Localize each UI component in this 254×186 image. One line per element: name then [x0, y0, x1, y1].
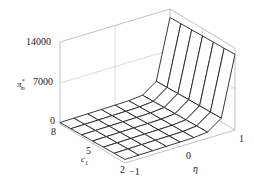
y-tick-0: 0 — [186, 151, 191, 161]
y-tick-1: 1 — [239, 134, 244, 144]
y-axis-label: η — [193, 164, 198, 174]
y-tick-minus1: −1 — [129, 167, 140, 177]
x-axis-label: c1 — [81, 155, 88, 166]
x-tick-8: 8 — [51, 127, 56, 137]
x-axis-sub: 1 — [85, 160, 88, 166]
z-axis-sub: m — [21, 85, 25, 91]
surface-plot — [0, 0, 254, 186]
z-axis-label: π*m — [17, 78, 25, 91]
z-tick-14000: 14000 — [26, 37, 51, 47]
z-axis-sup: * — [22, 78, 25, 84]
x-tick-2: 2 — [120, 165, 125, 175]
z-tick-7000: 7000 — [33, 77, 53, 87]
z-tick-0: 0 — [50, 116, 55, 126]
